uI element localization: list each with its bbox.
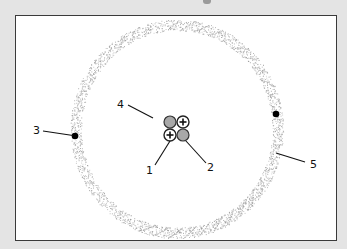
electron-cloud-ring xyxy=(71,20,284,239)
proton-top-right xyxy=(177,116,189,128)
neutron-bottom-right xyxy=(177,129,189,141)
label-4: 4 xyxy=(117,98,124,111)
label-5: 5 xyxy=(310,158,317,171)
nucleus xyxy=(164,116,189,141)
leader-4 xyxy=(128,105,153,118)
leader-3 xyxy=(43,131,73,136)
leader-2 xyxy=(186,141,206,163)
label-3: 3 xyxy=(33,124,40,137)
label-2: 2 xyxy=(207,161,214,174)
proton-bottom-left xyxy=(164,129,176,141)
leader-5 xyxy=(276,153,305,162)
atom-diagram: 3 4 1 2 5 xyxy=(0,0,347,249)
electron-right xyxy=(273,111,280,118)
leader-1 xyxy=(155,141,170,165)
neutron-top-left xyxy=(164,116,176,128)
label-1: 1 xyxy=(146,164,153,177)
